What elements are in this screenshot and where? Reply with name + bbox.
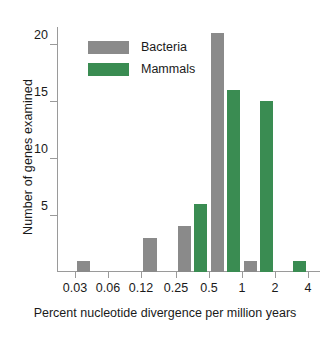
x-tick-mark <box>75 272 76 278</box>
x-tick-mark <box>308 272 309 278</box>
y-tick-label: 15 <box>8 85 48 99</box>
legend-label-bacteria: Bacteria <box>141 40 187 54</box>
y-tick-mark <box>50 44 57 45</box>
x-tick-mark <box>108 272 109 278</box>
bar-mammals-2-4 <box>293 261 306 272</box>
x-tick-mark <box>242 272 243 278</box>
bar-bacteria-0.03-0.06 <box>77 261 90 272</box>
x-tick-mark <box>176 272 177 278</box>
x-tick-mark <box>209 272 210 278</box>
bar-bacteria-0.12-0.25 <box>143 238 157 272</box>
y-tick-mark <box>50 215 57 216</box>
legend-label-mammals: Mammals <box>141 62 195 76</box>
legend-item-bacteria: Bacteria <box>88 36 195 58</box>
bar-bacteria-1-2 <box>244 261 257 272</box>
bar-bacteria-0.5-1 <box>211 33 224 272</box>
bar-mammals-1-2 <box>260 101 273 272</box>
y-tick-label: 20 <box>8 28 48 42</box>
bar-bacteria-0.25-0.5 <box>178 226 191 272</box>
legend: Bacteria Mammals <box>88 36 195 80</box>
x-tick-mark <box>275 272 276 278</box>
y-tick-mark <box>50 101 57 102</box>
x-axis-title: Percent nucleotide divergence per millio… <box>0 306 330 320</box>
y-axis-title: Number of genes examined <box>21 37 35 277</box>
x-tick-mark <box>141 272 142 278</box>
y-tick-label: 5 <box>8 199 48 213</box>
legend-item-mammals: Mammals <box>88 58 195 80</box>
legend-swatch-bacteria <box>88 41 129 54</box>
legend-swatch-mammals <box>88 63 129 76</box>
x-tick-label: 4 <box>285 281 330 295</box>
bar-mammals-0.5-1 <box>227 90 240 272</box>
y-tick-mark <box>50 158 57 159</box>
histogram-figure: Number of genes examined 5101520 0.030.0… <box>0 0 330 339</box>
y-tick-label: 10 <box>8 142 48 156</box>
bar-mammals-0.25-0.5 <box>194 204 207 272</box>
